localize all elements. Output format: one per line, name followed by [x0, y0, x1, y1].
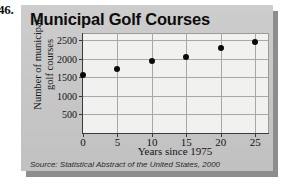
- problem-number: 46.: [0, 2, 13, 18]
- gridline-horizontal: [83, 114, 269, 115]
- y-axis-tick: [79, 59, 83, 60]
- y-axis-tick: [79, 96, 83, 97]
- gridline-vertical: [117, 33, 118, 133]
- y-axis-label: Number of municipal golf courses: [32, 13, 55, 117]
- y-axis-tick: [79, 40, 83, 41]
- gridline-vertical: [255, 33, 256, 133]
- data-point: [114, 66, 120, 72]
- y-axis-tick-label: 1500: [57, 72, 77, 83]
- gridline-horizontal: [83, 40, 269, 41]
- figure-panel: Municipal Golf Courses Number of municip…: [21, 5, 273, 171]
- x-axis-label: Years since 1975: [82, 145, 268, 157]
- figure-container: 46. Municipal Golf Courses Number of mun…: [0, 0, 287, 189]
- chart-title: Municipal Golf Courses: [30, 10, 210, 29]
- data-point: [252, 39, 258, 45]
- plot-frame-right: [268, 33, 269, 133]
- data-point: [218, 45, 224, 51]
- gridline-vertical: [186, 33, 187, 133]
- data-point: [149, 58, 155, 64]
- y-axis-tick: [79, 114, 83, 115]
- gridline-horizontal: [83, 96, 269, 97]
- plot-area: 50010001500200025000510152025: [82, 33, 269, 134]
- gridline-horizontal: [83, 59, 269, 60]
- y-axis-tick-label: 2500: [57, 35, 77, 46]
- y-axis-tick-label: 2000: [57, 53, 77, 64]
- source-note: Source: Statistical Abstract of the Unit…: [30, 160, 220, 169]
- gridline-horizontal: [83, 77, 269, 78]
- y-axis-tick-label: 1000: [57, 90, 77, 101]
- plot-frame-top: [83, 33, 269, 34]
- y-axis-tick-label: 500: [62, 109, 77, 120]
- gridline-vertical: [152, 33, 153, 133]
